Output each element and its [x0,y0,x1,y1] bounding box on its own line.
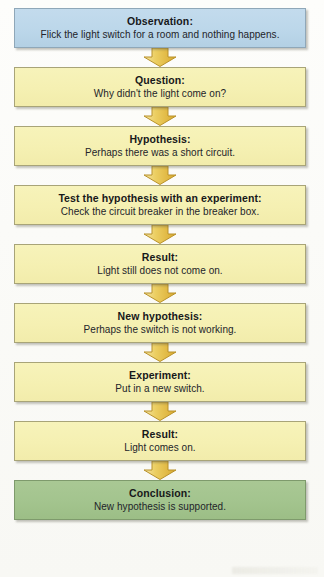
arrow-down-icon [14,166,306,185]
flow-step-question: Question: Why didn't the light come on? [14,67,306,107]
arrow-down-icon [14,225,306,244]
flow-step-title: Experiment: [129,369,191,382]
flow-step-test-hypothesis: Test the hypothesis with an experiment: … [14,185,306,225]
flow-step-new-hypothesis: New hypothesis: Perhaps the switch is no… [14,303,306,343]
scientific-method-flowchart: Observation: Flick the light switch for … [0,0,324,577]
flow-step-body: Why didn't the light come on? [94,87,226,100]
flow-step-title: Result: [142,428,178,441]
flow-step-body: Put in a new switch. [115,382,204,395]
arrow-down-icon [14,402,306,421]
flow-step-result-2: Result: Light comes on. [14,421,306,461]
flow-step-body: Light still does not come on. [97,264,222,277]
arrow-down-icon [14,343,306,362]
arrow-down-icon [14,461,306,480]
flow-step-hypothesis: Hypothesis: Perhaps there was a short ci… [14,126,306,166]
flow-step-body: Perhaps the switch is not working. [84,323,237,336]
flow-step-conclusion: Conclusion: New hypothesis is supported. [14,480,306,520]
flow-step-title: Question: [135,74,185,87]
flow-step-body: New hypothesis is supported. [94,500,226,513]
flow-step-body: Light comes on. [124,441,195,454]
flow-step-title: Result: [142,251,178,264]
arrow-down-icon [14,284,306,303]
flow-step-title: Observation: [127,15,193,28]
flow-step-title: Conclusion: [129,487,191,500]
flow-step-body: Check the circuit breaker in the breaker… [61,205,259,218]
flow-step-observation: Observation: Flick the light switch for … [14,8,306,48]
flow-step-body: Perhaps there was a short circuit. [85,146,235,159]
flow-step-title: Hypothesis: [129,133,190,146]
flow-step-result-1: Result: Light still does not come on. [14,244,306,284]
flow-step-experiment: Experiment: Put in a new switch. [14,362,306,402]
flow-step-title: Test the hypothesis with an experiment: [58,192,261,205]
arrow-down-icon [14,48,306,67]
flow-step-title: New hypothesis: [118,310,203,323]
flow-step-body: Flick the light switch for a room and no… [41,28,280,41]
arrow-down-icon [14,107,306,126]
